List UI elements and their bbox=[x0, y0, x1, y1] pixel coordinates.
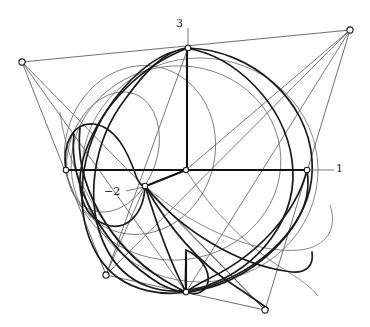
vertex-center-node[interactable] bbox=[183, 167, 188, 172]
vertex-left-node[interactable] bbox=[63, 167, 69, 173]
vertex-right-node[interactable] bbox=[304, 167, 310, 173]
vertex-minus-two-node[interactable] bbox=[142, 183, 148, 189]
vertex-bottom-left-outer[interactable] bbox=[103, 272, 109, 278]
label-minus-two: −2 bbox=[104, 186, 120, 197]
vertex-top-left-outer[interactable] bbox=[19, 59, 25, 65]
label-three: 3 bbox=[176, 18, 183, 29]
vertex-top-right-outer[interactable] bbox=[347, 27, 353, 33]
thin-arc-lower-right bbox=[145, 186, 333, 250]
label-one: 1 bbox=[336, 163, 343, 174]
label-leaders-group bbox=[126, 28, 334, 191]
curve-diagram-svg bbox=[0, 0, 370, 327]
thick-arc-bottom-right bbox=[186, 170, 308, 292]
vertex-bottom-node[interactable] bbox=[183, 289, 189, 295]
figure-canvas: 3 1 −2 bbox=[0, 0, 370, 327]
vertex-bottom-right-outer[interactable] bbox=[262, 307, 268, 313]
thin-arc-center-right bbox=[186, 170, 318, 296]
spoke-tr-bl bbox=[106, 30, 350, 275]
spoke-m2-br bbox=[145, 186, 265, 310]
principal-curves-group bbox=[65, 48, 312, 309]
thin-conics-group bbox=[47, 49, 333, 296]
vertex-top-node[interactable] bbox=[185, 45, 191, 51]
